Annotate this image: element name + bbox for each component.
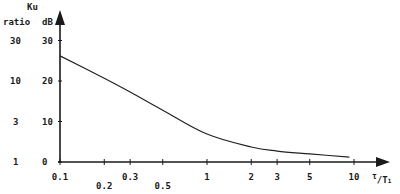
y-ticks: 0110320103030 (10, 36, 62, 168)
x-tick-label: 5 (307, 172, 312, 182)
ratio-unit-label: ratio (3, 17, 30, 27)
ku-curve (60, 56, 349, 157)
y-tick-label-db: 20 (42, 76, 53, 86)
x-axis-arrow-icon (376, 157, 390, 167)
x-tick-label: 1 (204, 172, 209, 182)
y-tick-label-ratio: 30 (10, 36, 21, 46)
y-axis-arrow-icon (55, 10, 65, 25)
x-tick-label: 0.5 (155, 181, 171, 191)
db-unit-label: dB (42, 17, 53, 27)
x-tick-label: 10 (349, 172, 360, 182)
y-tick-label-ratio: 3 (13, 117, 18, 127)
x-axis-label: τ/T1 (372, 172, 392, 185)
x-ticks: 0.10.20.30.5123510 (52, 159, 360, 191)
y-tick-label-ratio: 1 (13, 157, 18, 167)
y-tick-label-db: 10 (42, 117, 53, 127)
x-tick-label: 0.1 (52, 172, 68, 182)
y-tick-label-ratio: 10 (10, 76, 21, 86)
ku-label: Ku (27, 2, 38, 12)
x-tick-label: 0.3 (122, 172, 138, 182)
y-tick-label-db: 0 (42, 157, 47, 167)
x-tick-label: 3 (274, 172, 279, 182)
x-tick-label: 0.2 (96, 181, 112, 191)
x-tick-label: 2 (249, 172, 254, 182)
y-tick-label-db: 30 (42, 36, 53, 46)
ku-vs-tau-chart: 0110320103030 0.10.20.30.5123510 Ku rati… (0, 0, 400, 194)
